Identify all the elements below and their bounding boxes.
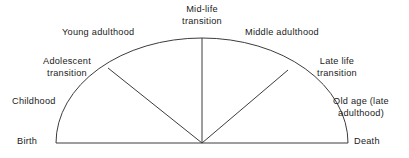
label-late-life-transition-line1: Late life	[320, 56, 354, 66]
label-old-age-line2: adulthood)	[338, 108, 384, 118]
label-childhood: Childhood	[12, 96, 56, 108]
label-death: Death	[354, 136, 380, 148]
label-late-life-transition: Late life transition	[300, 56, 374, 79]
life-stage-arc-diagram: Mid-life transition Young adulthood Midd…	[0, 0, 409, 158]
spoke-late-life-transition	[202, 70, 288, 143]
label-adolescent-transition-line1: Adolescent	[43, 56, 91, 66]
label-adolescent-transition: Adolescent transition	[31, 56, 103, 79]
label-midlife-transition-line2: transition	[182, 16, 222, 26]
label-birth: Birth	[17, 136, 37, 148]
label-adolescent-transition-line2: transition	[47, 68, 87, 78]
spoke-adolescent-transition	[108, 68, 202, 143]
label-middle-adulthood: Middle adulthood	[245, 27, 319, 39]
label-midlife-transition-line1: Mid-life	[186, 4, 218, 14]
label-late-life-transition-line2: transition	[317, 68, 357, 78]
label-old-age: Old age (late adulthood)	[318, 96, 404, 119]
label-old-age-line1: Old age (late	[333, 96, 389, 106]
label-young-adulthood: Young adulthood	[62, 27, 134, 39]
label-midlife-transition: Mid-life transition	[160, 4, 244, 27]
